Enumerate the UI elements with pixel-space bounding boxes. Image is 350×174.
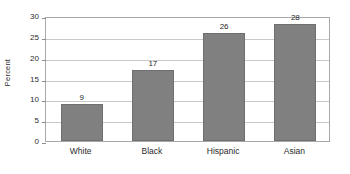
bar [132,70,174,141]
bars-layer: 9172628 [46,18,329,141]
y-axis-title-text: Percent [4,58,13,85]
bar-group: 17 [132,18,174,141]
y-tick-label: 25 [30,34,39,42]
bar [274,24,316,141]
x-axis-category-labels: WhiteBlackHispanicAsian [45,146,330,166]
bar [61,104,103,142]
bar-value-label: 26 [203,22,245,31]
bar-chart: Percent 051015202530 9172628 WhiteBlackH… [0,0,350,174]
y-axis-tick-labels: 051015202530 [16,0,42,174]
y-tick-label: 10 [30,96,39,104]
bar-group: 28 [274,18,316,141]
y-tick-label: 0 [35,138,39,146]
y-tick-label: 5 [35,117,39,125]
plot-area: 9172628 [45,17,330,142]
bar-group: 9 [61,18,103,141]
y-tick-label: 20 [30,55,39,63]
y-axis-title: Percent [0,0,16,144]
bar-value-label: 28 [274,13,316,22]
bar-value-label: 17 [132,59,174,68]
x-category-label: White [45,146,116,156]
y-tick-mark [42,143,46,144]
y-tick-label: 15 [30,76,39,84]
bar [203,33,245,141]
x-category-label: Asian [259,146,330,156]
y-tick-label: 30 [30,13,39,21]
bar-group: 26 [203,18,245,141]
bar-value-label: 9 [61,93,103,102]
x-category-label: Hispanic [188,146,259,156]
x-category-label: Black [116,146,187,156]
